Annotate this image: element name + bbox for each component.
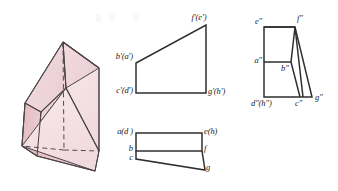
side-view-label-bottom-right: g″: [315, 93, 323, 102]
front-view-label-bottom-right: g'(h'): [208, 87, 225, 96]
side-view-label-top-right: f″: [297, 14, 303, 23]
front-view-label-top-right: f'(e'): [192, 13, 207, 22]
wedge-prism-pictorial: [22, 42, 99, 171]
top-view-label-mid-right: f: [204, 144, 206, 153]
top-view-label-lower-left: c: [129, 153, 133, 162]
top-view-label-lower-right: g: [206, 163, 210, 172]
side-view-label-top-left: e″: [255, 17, 262, 26]
top-view-label-upper-right: e(h): [204, 127, 217, 136]
top-view-geometry: [136, 133, 205, 170]
side-view-label-bottom-mid: c″: [295, 99, 302, 108]
projection-plate: b'(a') c'(d') f'(e') g'(h') a(d ) b c e(…: [0, 0, 338, 191]
front-view-geometry: [136, 25, 206, 93]
side-view-label-bottom-left: d″(h″): [251, 99, 272, 108]
drawing-canvas: [0, 0, 338, 191]
front-view-label-top-left: b'(a'): [116, 52, 133, 61]
side-view-label-mid-left: a″: [254, 56, 262, 65]
front-view-label-bottom-left: c'(d'): [116, 86, 133, 95]
scan-artifact: [96, 14, 176, 22]
top-view-label-upper-left: a(d ): [117, 127, 133, 136]
side-view-geometry: [264, 27, 312, 97]
side-view-label-mid-right: b″: [281, 64, 289, 73]
